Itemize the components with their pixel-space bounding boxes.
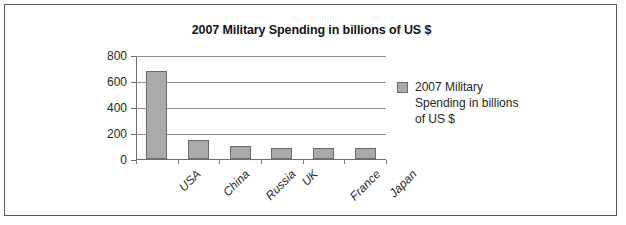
y-tick-label: 200 [107, 127, 127, 141]
y-tick-label: 400 [107, 101, 127, 115]
x-label-china: China [220, 167, 252, 199]
gridline [136, 108, 386, 109]
x-tick-mark [136, 160, 137, 164]
plot-area: 0200400600800 USAChinaRussiaUKFranceJapa… [136, 56, 386, 160]
y-tick-mark [131, 108, 136, 109]
x-tick-mark [386, 160, 387, 164]
bar-usa [146, 71, 167, 159]
chart-page: 2007 Military Spending in billions of US… [0, 0, 626, 225]
bar-japan [355, 148, 376, 159]
bar-uk [271, 148, 292, 159]
legend-swatch-icon [397, 82, 408, 93]
gridline [136, 82, 386, 83]
x-tick-mark [219, 160, 220, 164]
y-tick-label: 600 [107, 75, 127, 89]
x-label-france: France [346, 167, 382, 203]
y-tick-mark [131, 56, 136, 57]
chart-frame: 2007 Military Spending in billions of US… [4, 4, 617, 216]
x-label-uk: UK [299, 167, 321, 189]
x-tick-mark [178, 160, 179, 164]
x-label-japan: Japan [387, 167, 420, 200]
bar-russia [230, 146, 251, 159]
x-tick-mark [303, 160, 304, 164]
gridline [136, 56, 386, 57]
gridline [136, 134, 386, 135]
y-tick-label: 0 [120, 153, 127, 167]
bar-china [188, 140, 209, 160]
chart-legend: 2007 Military Spending in billions of US… [397, 79, 537, 127]
y-tick-mark [131, 134, 136, 135]
x-tick-mark [261, 160, 262, 164]
y-tick-mark [131, 82, 136, 83]
x-label-russia: Russia [263, 167, 299, 203]
x-tick-mark [344, 160, 345, 164]
y-tick-label: 800 [107, 49, 127, 63]
bar-france [313, 148, 334, 159]
chart-title: 2007 Military Spending in billions of US… [5, 23, 618, 37]
x-label-usa: USA [176, 167, 203, 194]
legend-label: 2007 Military Spending in billions of US… [415, 79, 523, 127]
